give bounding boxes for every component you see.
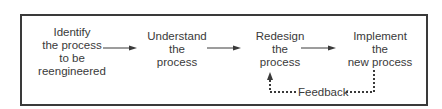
arrow-icon bbox=[301, 46, 336, 51]
feedback-label: Feedback bbox=[298, 86, 344, 99]
arrow-icon bbox=[207, 46, 241, 51]
arrow-icon bbox=[103, 46, 137, 51]
arrows-layer bbox=[0, 0, 442, 109]
